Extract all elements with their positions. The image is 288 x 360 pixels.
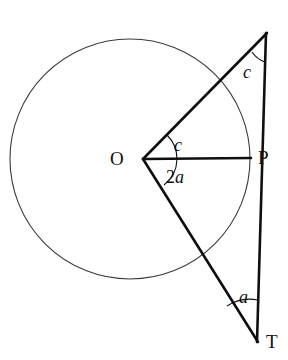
angle-label-a-at-T: a	[239, 288, 248, 306]
angle-label-2a-variable: a	[175, 167, 184, 187]
point-label-O: O	[110, 149, 124, 168]
point-label-T: T	[266, 332, 278, 351]
geometry-figure: O P T c c 2a a	[0, 0, 288, 360]
segment-O-to-T	[143, 159, 258, 342]
angle-label-2a-center: 2a	[166, 168, 184, 186]
segment-O-to-P	[143, 158, 251, 159]
point-label-P: P	[258, 148, 269, 167]
angle-label-2a-number: 2	[166, 167, 175, 187]
angle-label-c-apex: c	[243, 63, 251, 81]
arc-angle-c-at-apex	[252, 52, 265, 62]
segment-apex-to-T	[257, 33, 266, 342]
angle-label-c-center: c	[174, 136, 182, 154]
